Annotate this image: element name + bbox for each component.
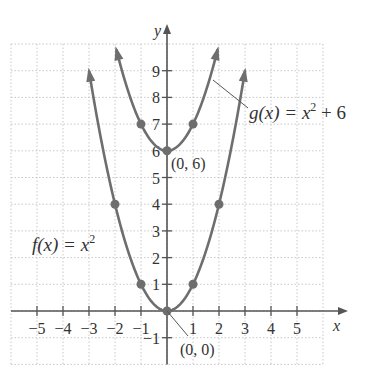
x-tick-label: 3 [241,320,249,337]
y-tick-label: 9 [152,63,160,80]
x-axis-arrow-icon [338,307,348,315]
y-tick-label: 4 [152,196,160,213]
y-tick-label: 2 [152,250,160,267]
data-point [215,200,224,209]
curve-arrow-icon [115,46,124,61]
x-tick-label: −4 [54,320,71,337]
x-axis-label: x [332,317,340,334]
x-tick-label: −2 [106,320,123,337]
y-tick-label: 3 [152,223,160,240]
vertex-f-label: (0, 0) [180,341,215,359]
vertex-f-leader [167,311,188,336]
g-function-label: g(x) = x2 + 6 [249,100,346,124]
x-tick-label: 5 [293,320,301,337]
y-tick-label: 7 [152,116,160,133]
data-point [137,280,146,289]
y-tick-label: 1 [152,276,160,293]
x-tick-label: −5 [28,320,45,337]
data-point [189,120,198,129]
curve-arrow-icon [86,68,95,83]
data-point [163,146,172,155]
y-axis-arrow-icon [163,24,171,34]
y-tick-label: 5 [152,170,160,187]
curve-arrow-icon [239,68,248,83]
y-axis-label: y [152,22,162,40]
y-tick-label: −1 [143,330,160,347]
x-tick-label: −3 [80,320,97,337]
vertex-g-label: (0, 6) [171,155,206,173]
data-point [111,200,120,209]
x-tick-label: 4 [267,320,275,337]
x-tick-label: 2 [215,320,223,337]
data-point [137,120,146,129]
f-function-label: f(x) = x2 [32,232,95,256]
y-tick-label: 8 [152,89,160,106]
x-tick-label: 1 [189,320,197,337]
curve-arrow-icon [211,46,220,61]
data-point [189,280,198,289]
parabola-chart: −5−4−3−2−112345−1123456789 y x f(x) = x2… [0,0,372,372]
